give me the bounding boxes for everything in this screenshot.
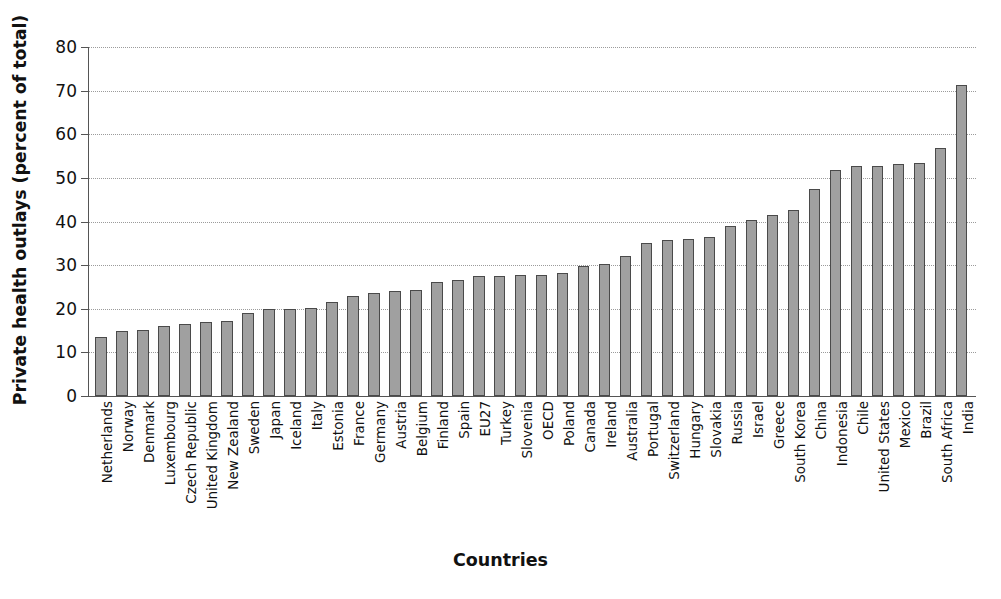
x-tick-label: Germany bbox=[374, 401, 388, 463]
x-tick-label: EU27 bbox=[479, 401, 493, 437]
y-tick-label: 10 bbox=[55, 344, 77, 361]
x-tick-label: Poland bbox=[563, 401, 577, 446]
y-tick-label: 50 bbox=[55, 169, 77, 186]
bar bbox=[599, 264, 610, 396]
bar bbox=[536, 275, 547, 396]
bar bbox=[935, 148, 946, 396]
bar bbox=[242, 313, 253, 396]
x-tick-label: Slovenia bbox=[521, 401, 535, 458]
x-tick-label: United Kingdom bbox=[206, 401, 220, 509]
x-tick-label: Portugal bbox=[647, 401, 661, 457]
y-tick-label: 80 bbox=[55, 39, 77, 56]
y-tick-mark bbox=[81, 396, 88, 397]
bar bbox=[725, 226, 736, 396]
x-tick-label: Australia bbox=[626, 401, 640, 461]
gridline bbox=[89, 309, 976, 310]
bar bbox=[851, 166, 862, 396]
bar bbox=[284, 309, 295, 396]
y-tick-label: 0 bbox=[66, 388, 77, 405]
x-tick-label: Italy bbox=[311, 401, 325, 430]
x-tick-label: Hungary bbox=[689, 401, 703, 459]
gridline bbox=[89, 265, 976, 266]
bar bbox=[263, 309, 274, 396]
bar bbox=[494, 276, 505, 396]
bar bbox=[116, 331, 127, 396]
bar bbox=[179, 324, 190, 396]
bar bbox=[452, 280, 463, 396]
x-tick-label: Greece bbox=[773, 401, 787, 449]
x-tick-label: Belgium bbox=[416, 401, 430, 456]
x-tick-label: China bbox=[815, 401, 829, 440]
bar bbox=[830, 170, 841, 396]
y-tick-mark bbox=[81, 352, 88, 353]
bar bbox=[620, 256, 631, 396]
x-tick-label: South Korea bbox=[794, 401, 808, 483]
bar bbox=[221, 321, 232, 396]
x-tick-label: Slovakia bbox=[710, 401, 724, 458]
x-tick-label: New Zealand bbox=[227, 401, 241, 490]
gridline bbox=[89, 134, 976, 135]
bar bbox=[704, 237, 715, 396]
x-tick-label: Ireland bbox=[605, 401, 619, 448]
x-tick-label: France bbox=[353, 401, 367, 446]
y-tick-mark bbox=[81, 309, 88, 310]
x-tick-label: Switzerland bbox=[668, 401, 682, 480]
bar bbox=[788, 210, 799, 396]
x-tick-label: Estonia bbox=[332, 401, 346, 451]
y-tick-label: 60 bbox=[55, 126, 77, 143]
bar bbox=[431, 282, 442, 396]
x-tick-label: Denmark bbox=[143, 401, 157, 463]
y-tick-label: 20 bbox=[55, 300, 77, 317]
bar bbox=[746, 220, 757, 396]
y-tick-label: 70 bbox=[55, 82, 77, 99]
bar bbox=[305, 308, 316, 396]
x-tick-label: Indonesia bbox=[836, 401, 850, 466]
x-tick-label: Russia bbox=[731, 401, 745, 444]
x-axis-ticks: NetherlandsNorwayDenmarkLuxembourgCzech … bbox=[88, 397, 976, 537]
bar bbox=[557, 273, 568, 396]
y-axis-title: Private health outlays (percent of total… bbox=[0, 0, 40, 420]
y-tick-label: 40 bbox=[55, 213, 77, 230]
y-axis-title-text: Private health outlays (percent of total… bbox=[10, 15, 30, 405]
x-tick-label: Norway bbox=[122, 401, 136, 452]
y-axis-line bbox=[88, 47, 89, 396]
x-tick-label: India bbox=[962, 401, 976, 434]
bar bbox=[767, 215, 778, 396]
x-tick-label: South Africa bbox=[941, 401, 955, 483]
x-tick-label: Netherlands bbox=[101, 401, 115, 483]
bar bbox=[389, 291, 400, 396]
bar bbox=[326, 302, 337, 396]
y-tick-mark bbox=[81, 265, 88, 266]
bar bbox=[809, 189, 820, 396]
x-axis-title: Countries bbox=[0, 550, 1001, 570]
gridline bbox=[89, 178, 976, 179]
bar bbox=[914, 163, 925, 396]
x-tick-label: Japan bbox=[269, 401, 283, 439]
x-tick-label: OECD bbox=[542, 401, 556, 440]
bar bbox=[683, 239, 694, 396]
x-tick-label: Spain bbox=[458, 401, 472, 439]
x-tick-label: Czech Republic bbox=[185, 401, 199, 504]
x-tick-label: Austria bbox=[395, 401, 409, 449]
bar bbox=[956, 85, 967, 396]
y-tick-mark bbox=[81, 222, 88, 223]
y-tick-mark bbox=[81, 178, 88, 179]
bar bbox=[515, 275, 526, 396]
bar bbox=[641, 243, 652, 396]
bar bbox=[893, 164, 904, 396]
x-tick-label: Canada bbox=[584, 401, 598, 452]
gridline bbox=[89, 47, 976, 48]
bar bbox=[410, 290, 421, 396]
bar bbox=[473, 276, 484, 396]
bar bbox=[137, 330, 148, 396]
x-tick-label: Mexico bbox=[899, 401, 913, 448]
x-axis-title-text: Countries bbox=[453, 550, 548, 570]
x-tick-label: Finland bbox=[437, 401, 451, 449]
bar bbox=[872, 166, 883, 396]
x-tick-label: Israel bbox=[752, 401, 766, 438]
gridline bbox=[89, 222, 976, 223]
x-tick-label: Turkey bbox=[500, 401, 514, 445]
y-tick-mark bbox=[81, 91, 88, 92]
bar bbox=[662, 240, 673, 396]
bar bbox=[578, 266, 589, 396]
